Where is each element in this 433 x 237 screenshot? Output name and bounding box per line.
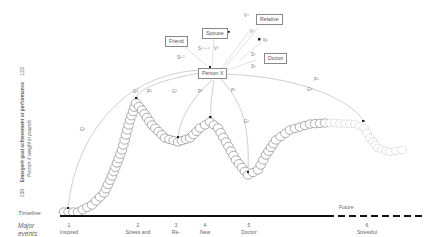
node-person-x: Person X (198, 68, 227, 79)
label-g5: G⁵ (244, 120, 249, 125)
node-doctor: Doctor (264, 53, 287, 64)
major-events-label: Majorevents (18, 222, 37, 237)
label-g3: G³ (172, 90, 177, 95)
future-label: Future (339, 205, 353, 210)
event-4-label: Newfamily (185, 229, 225, 237)
event-2-label: Stress andovereating (118, 229, 158, 237)
arc-p4 (211, 80, 214, 117)
future-trajectory-chain (326, 119, 407, 156)
event-5-label: Doctordiscussion (229, 229, 269, 237)
label-n-relative: N⁵ (263, 39, 268, 44)
event-1-number: 1 (64, 222, 74, 228)
label-p4: P⁴ (231, 89, 236, 94)
label-s-friend: S¹·³ (177, 56, 185, 61)
label-v-relative-mid: V⁴ (250, 30, 255, 35)
event-6-label: Stressfulmove (347, 229, 387, 237)
label-g2: G² (133, 90, 138, 95)
label-g1: G¹ (80, 128, 85, 133)
timeline-label: Timeline (18, 210, 41, 218)
event-4-number: 4 (200, 222, 210, 228)
y-axis-label: 200 Emergent goal achievement or perform… (20, 67, 25, 197)
event-3-number: 3 (171, 222, 181, 228)
node-relative: Relative (256, 14, 283, 25)
event-5-number: 5 (244, 222, 254, 228)
label-v-spouse: V⁴ (214, 47, 219, 52)
label-s-doctor-1: S⁵ (251, 53, 256, 58)
node-friend: Friend (165, 36, 188, 47)
arc-g6 (222, 74, 363, 120)
label-g6: G⁶ (307, 88, 312, 93)
label-p6: P⁶ (314, 78, 319, 83)
label-v-relative-top: V⁴ (244, 14, 249, 19)
node-spouse: Spouse (202, 28, 228, 39)
label-p2: P² (147, 90, 152, 95)
event-6-number: 6 (362, 222, 372, 228)
event-1-label: Inspiredby friend (49, 229, 89, 237)
weight-trajectory-chain (59, 99, 330, 216)
label-s-doctor-2: S⁵ (251, 65, 256, 70)
event-2-number: 2 (133, 222, 143, 228)
label-p3: P³ (198, 90, 203, 95)
label-s-spouse: S⁴·⁵·⁶ (198, 47, 210, 52)
y-axis-sublabel: Person X weight in pounds (27, 120, 32, 177)
